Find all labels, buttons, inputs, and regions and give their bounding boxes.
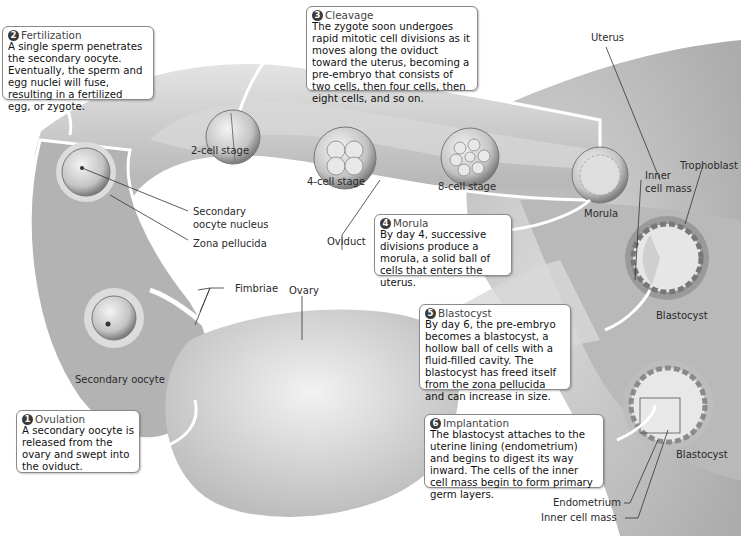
callout-implantation: 6Implantation The blastocyst attaches to… [424, 414, 604, 488]
blastocyst-implanting [623, 360, 713, 450]
label-2-cell-stage: 2-cell stage [191, 145, 249, 157]
callout-heading: Blastocyst [438, 307, 492, 319]
label-4-cell-stage: 4-cell stage [307, 176, 365, 188]
callout-heading: Ovulation [35, 413, 85, 425]
ovary [165, 310, 459, 517]
step-5-badge: 5 [425, 308, 436, 319]
callout-text: A secondary oocyte is released from the … [22, 425, 134, 473]
callout-text: The zygote soon undergoes rapid mitotic … [312, 21, 472, 105]
callout-heading: Cleavage [325, 9, 373, 21]
callout-text: By day 4, successive divisions produce a… [380, 229, 506, 289]
label-secondary-oocyte-nucleus: Secondary oocyte nucleus [193, 205, 269, 231]
step-1-badge: 1 [22, 414, 33, 425]
eight-cell-embryo [441, 128, 499, 186]
callout-heading: Fertilization [21, 29, 82, 41]
callout-cleavage: 3Cleavage The zygote soon undergoes rapi… [306, 6, 478, 91]
label-blastocyst-free: Blastocyst [656, 310, 708, 322]
label-morula: Morula [584, 208, 618, 220]
label-oviduct: Oviduct [327, 236, 366, 248]
step-2-badge: 2 [8, 30, 19, 41]
callout-ovulation: 1Ovulation A secondary oocyte is release… [16, 410, 140, 473]
label-inner-cell-mass-top: Inner cell mass [645, 169, 692, 195]
label-endometrium: Endometrium [553, 497, 621, 509]
callout-blastocyst: 5Blastocyst By day 6, the pre-embryo bec… [419, 304, 571, 390]
label-uterus: Uterus [591, 32, 624, 44]
callout-text: The blastocyst attaches to the uterine l… [430, 429, 598, 501]
label-ovary: Ovary [289, 285, 319, 297]
step-6-badge: 6 [430, 418, 441, 429]
callout-text: By day 6, the pre-embryo becomes a blast… [425, 319, 565, 403]
callout-text: A single sperm penetrates the secondary … [8, 41, 148, 113]
label-fimbriae: Fimbriae [235, 283, 278, 295]
label-zona-pellucida: Zona pellucida [193, 238, 267, 250]
callout-fertilization: 2Fertilization A single sperm penetrates… [2, 26, 154, 100]
label-blastocyst-implanting: Blastocyst [676, 449, 728, 461]
step-4-badge: 4 [380, 218, 391, 229]
label-inner-cell-mass: Inner cell mass [541, 512, 617, 524]
label-secondary-oocyte: Secondary oocyte [75, 374, 165, 386]
label-8-cell-stage: 8-cell stage [438, 181, 496, 193]
callout-morula: 4Morula By day 4, successive divisions p… [374, 214, 512, 276]
callout-heading: Implantation [443, 417, 509, 429]
step-3-badge: 3 [312, 10, 323, 21]
blastocyst-free [625, 216, 709, 300]
morula [572, 147, 628, 203]
secondary-oocyte [84, 288, 144, 348]
callout-heading: Morula [393, 217, 428, 229]
oocyte-fertilization [56, 142, 116, 202]
